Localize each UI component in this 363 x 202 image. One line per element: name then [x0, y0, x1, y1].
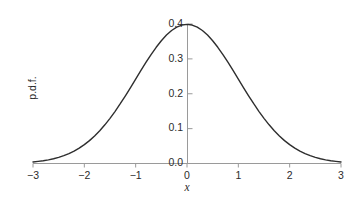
y-axis-ticks	[188, 24, 193, 129]
y-axis-tick-label: 0.0	[168, 156, 183, 168]
x-axis-tick-labels: −3−2−10123	[27, 169, 344, 181]
chart-canvas: −3−2−10123 0.00.10.20.30.4 p.d.f. x	[0, 0, 363, 202]
y-axis-tick-label: 0.3	[168, 52, 183, 64]
y-axis-tick-labels: 0.00.10.20.30.4	[168, 17, 183, 169]
x-axis-title: x	[183, 181, 190, 193]
x-axis-tick-label: 1	[235, 169, 241, 181]
x-axis-tick-label: −3	[27, 169, 39, 181]
x-axis-tick-label: 3	[338, 169, 344, 181]
x-axis-tick-label: 0	[184, 169, 190, 181]
x-axis-ticks	[33, 164, 341, 168]
y-axis-tick-label: 0.1	[168, 121, 183, 133]
y-axis-title: p.d.f.	[26, 76, 38, 99]
x-axis-tick-label: −1	[130, 169, 142, 181]
chart-figure: −3−2−10123 0.00.10.20.30.4 p.d.f. x	[0, 0, 363, 202]
y-axis-tick-label: 0.2	[168, 87, 183, 99]
x-axis-tick-label: −2	[78, 169, 90, 181]
x-axis-tick-label: 2	[287, 169, 293, 181]
